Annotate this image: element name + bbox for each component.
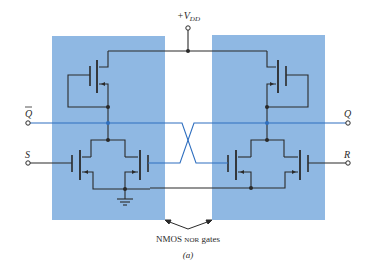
junction-dot	[123, 187, 127, 191]
s-terminal	[26, 161, 30, 165]
junction-dot	[265, 138, 269, 142]
annotation-label: NMOS NOR gates	[156, 234, 220, 244]
junction-dot	[265, 105, 269, 109]
junction-dot	[265, 121, 269, 125]
junction-dot	[186, 49, 190, 53]
s-label: S	[25, 149, 30, 160]
q-terminal	[346, 121, 350, 125]
figure-caption: (a)	[183, 250, 194, 260]
vdd-label: +VDD	[177, 10, 200, 23]
junction-dot	[249, 186, 253, 190]
junction-dot	[106, 121, 110, 125]
vdd-terminal	[186, 26, 190, 30]
qbar-label: Q	[25, 108, 33, 119]
right-nor-gate-box	[212, 35, 325, 220]
qbar-terminal	[26, 121, 30, 125]
q-label: Q	[344, 108, 352, 119]
arrow-icon	[165, 220, 171, 224]
sr-latch-schematic: +VDD Q S Q R NMOS NOR gates (a)	[0, 0, 371, 276]
junction-dot	[106, 105, 110, 109]
junction-dot	[106, 138, 110, 142]
r-terminal	[346, 161, 350, 165]
arrow-icon	[206, 220, 212, 224]
r-label: R	[343, 149, 350, 160]
